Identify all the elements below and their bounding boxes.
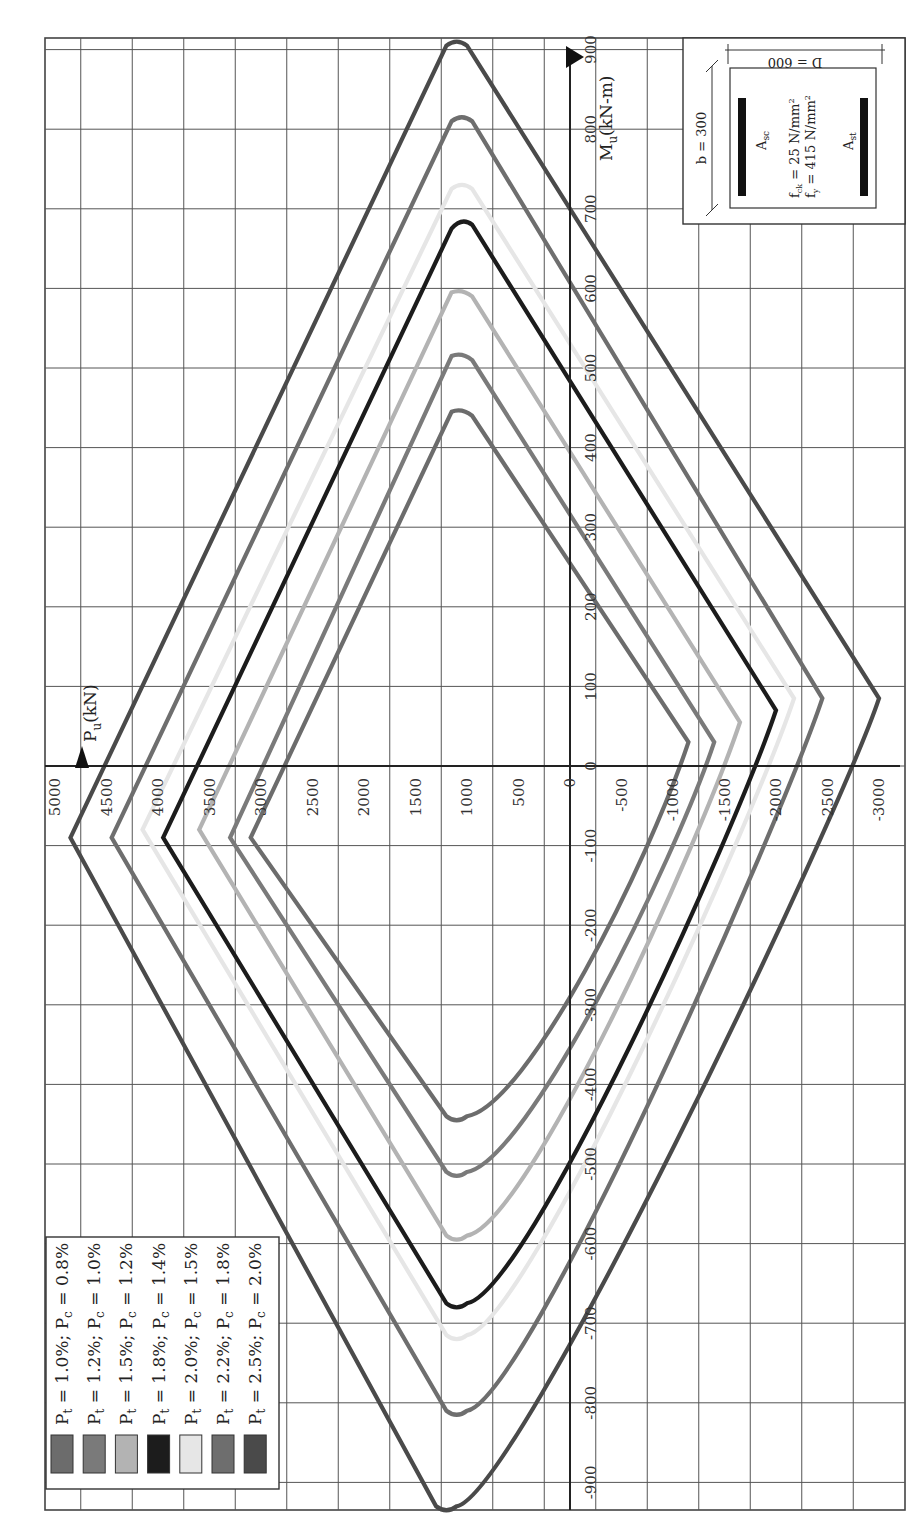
p-tick-label: 2500 — [304, 778, 322, 816]
section-inset: b = 300D = 600AscAstfck = 25 N/mm2fy = 4… — [683, 38, 905, 224]
p-tick-label: 3500 — [201, 778, 219, 816]
m-tick-label: 100 — [582, 672, 600, 701]
legend: Pt = 1.0%; Pc = 0.8%Pt = 1.2%; Pc = 1.0%… — [46, 1237, 279, 1489]
m-tick-label: 900 — [582, 35, 600, 64]
m-tick-label: -800 — [582, 1386, 600, 1420]
legend-item-label: Pt = 1.0%; Pc = 0.8% — [52, 1243, 75, 1425]
p-tick-label: 500 — [510, 778, 528, 807]
p-tick-label: 4500 — [98, 778, 116, 816]
p-tick-label: -500 — [613, 778, 631, 812]
legend-item-label: Pt = 1.2%; Pc = 1.0% — [84, 1243, 107, 1425]
p-tick-label: -2000 — [767, 778, 785, 821]
legend-swatch — [51, 1435, 73, 1473]
b-label: b = 300 — [694, 112, 709, 164]
m-tick-label: 200 — [582, 592, 600, 621]
m-tick-label: -500 — [582, 1147, 600, 1181]
p-tick-label: 0 — [561, 778, 579, 788]
legend-item-label: Pt = 2.5%; Pc = 2.0% — [245, 1243, 268, 1425]
d-label: D = 600 — [768, 55, 822, 70]
legend-swatch — [244, 1435, 266, 1473]
legend-item-label: Pt = 1.5%; Pc = 1.2% — [116, 1243, 139, 1425]
fy-label: fy = 415 N/mm2 — [803, 95, 820, 198]
p-tick-label: 2000 — [355, 778, 373, 816]
legend-swatch — [115, 1435, 137, 1473]
fck-label: fck = 25 N/mm2 — [787, 99, 804, 198]
m-tick-label: -200 — [582, 908, 600, 942]
m-tick-label: -100 — [582, 829, 600, 863]
m-tick-label: -700 — [582, 1306, 600, 1340]
m-tick-label: -400 — [582, 1068, 600, 1102]
p-tick-label: 5000 — [46, 778, 64, 816]
p-tick-label: 4000 — [149, 778, 167, 816]
m-tick-label: 700 — [582, 194, 600, 223]
m-tick-label: 600 — [582, 274, 600, 303]
asc-bar — [738, 98, 746, 196]
legend-swatch — [83, 1435, 105, 1473]
m-tick-label: 500 — [582, 354, 600, 383]
m-tick-label: 300 — [582, 513, 600, 542]
p-tick-label: 1000 — [458, 778, 476, 816]
legend-item-label: Pt = 1.8%; Pc = 1.4% — [149, 1243, 172, 1425]
m-tick-label: 400 — [582, 433, 600, 462]
p-tick-label: -3000 — [870, 778, 888, 821]
m-tick-label: 800 — [582, 115, 600, 144]
p-tick-label: 3000 — [252, 778, 270, 816]
legend-swatch — [148, 1435, 170, 1473]
p-tick-label: -1500 — [716, 778, 734, 821]
legend-item-label: Pt = 2.0%; Pc = 1.5% — [181, 1243, 204, 1425]
p-tick-label: -1000 — [664, 778, 682, 821]
m-tick-label: -300 — [582, 988, 600, 1022]
p-tick-label: -2500 — [819, 778, 837, 821]
ast-bar — [860, 98, 868, 196]
m-tick-label: -600 — [582, 1227, 600, 1261]
m-tick-label: -900 — [582, 1466, 600, 1500]
interaction-chart: Pu(kN)Mu(kN-m) 5000450040003500300025002… — [0, 0, 915, 1526]
p-tick-label: 1500 — [407, 778, 425, 816]
legend-swatch — [212, 1435, 234, 1473]
legend-item-label: Pt = 2.2%; Pc = 1.8% — [213, 1243, 236, 1425]
m-tick-label: 0 — [582, 761, 600, 771]
legend-swatch — [180, 1435, 202, 1473]
